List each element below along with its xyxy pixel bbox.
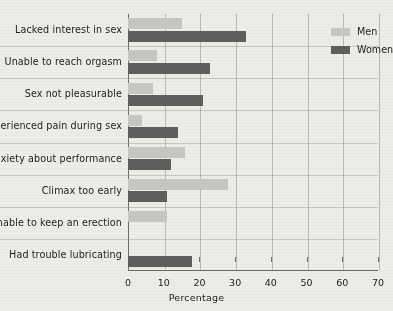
category-label: Lacked interest in sex (0, 24, 122, 35)
row-separator (0, 78, 378, 79)
bar-women (128, 191, 167, 202)
x-axis-tick-label: 30 (229, 277, 241, 288)
x-axis-tick-label: 60 (336, 277, 348, 288)
legend-label: Men (357, 26, 377, 37)
chart-legend: MenWomen (331, 26, 393, 62)
category-label: Unable to keep an erection (0, 217, 122, 228)
category-label: Unable to reach orgasm (0, 56, 122, 67)
row-separator (0, 46, 378, 47)
bar-men (128, 115, 142, 126)
category-label: Experienced pain during sex (0, 120, 122, 131)
bar-men (128, 18, 182, 29)
row-separator (0, 175, 378, 176)
x-axis-tick-label: 70 (372, 277, 384, 288)
bar-women (128, 127, 178, 138)
x-axis-tick (271, 257, 272, 262)
category-label: Had trouble lubricating (0, 249, 122, 260)
x-axis-tick-label: 50 (301, 277, 313, 288)
bar-men (128, 147, 185, 158)
horizontal-bar-chart: 010203040506070Lacked interest in sexUna… (0, 0, 393, 311)
x-axis-tick (342, 257, 343, 262)
category-label: Anxiety about performance (0, 153, 122, 164)
bar-women (128, 256, 192, 267)
x-axis-tick (378, 257, 379, 262)
x-axis-tick-label: 40 (265, 277, 277, 288)
bar-men (128, 179, 228, 190)
x-axis-title: Percentage (0, 292, 393, 303)
x-axis-tick-label: 0 (125, 277, 131, 288)
x-axis-tick-label: 20 (193, 277, 205, 288)
bar-men (128, 83, 153, 94)
bar-women (128, 31, 246, 42)
category-label: Climax too early (0, 185, 122, 196)
x-axis-tick (199, 257, 200, 262)
x-axis-tick (307, 257, 308, 262)
row-separator (0, 239, 378, 240)
bar-men (128, 211, 167, 222)
legend-swatch (331, 28, 350, 36)
legend-item: Women (331, 44, 393, 55)
category-label: Sex not pleasurable (0, 88, 122, 99)
x-axis-tick-label: 10 (158, 277, 170, 288)
bar-women (128, 159, 171, 170)
x-axis-tick (235, 257, 236, 262)
row-separator (0, 143, 378, 144)
bar-women (128, 63, 210, 74)
legend-swatch (331, 46, 350, 54)
legend-item: Men (331, 26, 393, 37)
row-separator (0, 110, 378, 111)
bar-women (128, 95, 203, 106)
legend-label: Women (357, 44, 393, 55)
row-separator (0, 207, 378, 208)
bar-men (128, 50, 157, 61)
